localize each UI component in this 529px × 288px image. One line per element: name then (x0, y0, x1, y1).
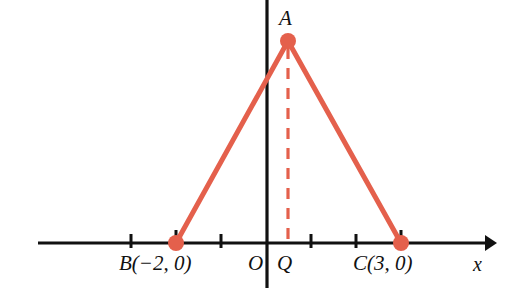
figure-canvas (0, 0, 529, 288)
x-axis-arrowhead (485, 235, 497, 251)
label-point-c: C(3, 0) (353, 253, 413, 274)
label-point-b: B(−2, 0) (119, 253, 192, 274)
point-b-marker (168, 235, 184, 251)
point-c-marker (393, 235, 409, 251)
label-x-axis: x (473, 254, 482, 274)
label-point-q: Q (277, 253, 292, 274)
segment-ac (288, 41, 401, 243)
geometry-figure: A B(−2, 0) O Q C(3, 0) x (0, 0, 529, 288)
segment-ab (176, 41, 288, 243)
point-a-marker (280, 33, 296, 49)
label-origin: O (248, 253, 263, 274)
label-point-a: A (279, 8, 292, 29)
